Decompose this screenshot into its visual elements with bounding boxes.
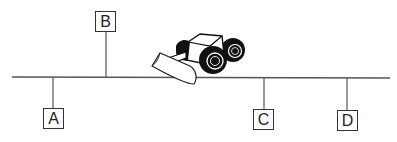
- point-d-label: D: [337, 110, 358, 131]
- point-a-text: A: [48, 111, 59, 127]
- point-d-text: D: [342, 113, 354, 129]
- road-diagram: A B C D: [0, 0, 397, 142]
- point-c-label: C: [253, 109, 274, 130]
- point-b-label: B: [95, 11, 116, 32]
- point-b-text: B: [100, 14, 111, 30]
- bulldozer-icon: [152, 34, 245, 84]
- point-c-text: C: [258, 112, 270, 128]
- road-line: [12, 77, 390, 78]
- point-a-label: A: [43, 108, 64, 129]
